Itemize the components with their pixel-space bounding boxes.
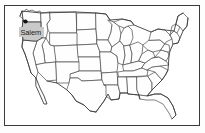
state-boundaries-layer	[20, 9, 188, 119]
state-louisiana	[104, 85, 120, 100]
baja-peninsula	[36, 78, 47, 104]
state-south-dakota	[77, 29, 97, 45]
state-montana	[47, 12, 77, 33]
state-michigan	[120, 26, 133, 46]
state-arizona	[36, 62, 57, 81]
state-arkansas	[102, 72, 118, 85]
state-florida	[139, 94, 176, 119]
us-reference-map: Salem	[0, 0, 205, 133]
state-colorado	[54, 45, 79, 62]
capital-city-dot[interactable]	[23, 19, 27, 23]
state-nebraska	[77, 44, 100, 57]
state-texas	[67, 78, 108, 112]
capital-label-salem: Salem	[21, 28, 41, 37]
state-wyoming	[50, 33, 77, 46]
state-kansas	[78, 57, 101, 71]
state-mississippi	[118, 77, 128, 93]
map-graphic: Salem	[0, 0, 205, 133]
state-north-dakota	[77, 13, 96, 30]
